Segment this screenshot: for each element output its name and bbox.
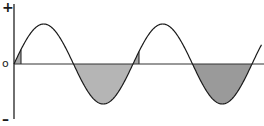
shaded-regions — [14, 50, 251, 104]
sine-wave-diagram — [0, 0, 264, 126]
negative-axis-label: – — [2, 112, 9, 126]
zero-axis-label: o — [2, 58, 9, 69]
positive-axis-label: + — [2, 0, 14, 14]
